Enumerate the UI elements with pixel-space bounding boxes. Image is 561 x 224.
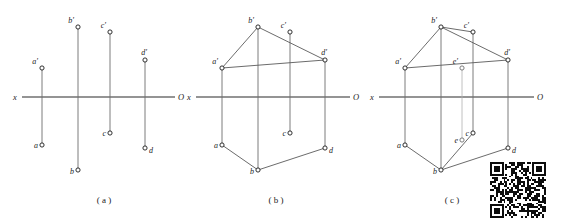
point-marker-e-prime-c <box>460 66 464 70</box>
point-label-b-b: b <box>250 167 254 176</box>
point-marker-c-a <box>108 131 112 135</box>
qr-code <box>487 162 549 218</box>
point-marker-b-prime-b <box>256 25 260 29</box>
point-label-b-c: b <box>433 167 437 176</box>
axis-label-x-b: x <box>186 92 191 102</box>
point-marker-c-b <box>288 131 292 135</box>
point-label-d-c: d <box>512 146 517 155</box>
point-marker-d-prime-a <box>143 58 147 62</box>
point-label-d-prime-a: d' <box>141 48 147 57</box>
point-marker-b-b <box>256 168 260 172</box>
point-label-a-c: a <box>397 141 401 150</box>
edge-ap-dp-b <box>222 60 325 68</box>
axis-label-o-b: O <box>353 92 359 102</box>
point-marker-a-b <box>220 143 224 147</box>
point-label-e-prime-c: e' <box>453 57 459 66</box>
edge-b-d-b <box>258 148 325 170</box>
panel-a: xOa'b'c'd'abcd <box>12 16 184 176</box>
point-label-c-b: c <box>282 129 286 138</box>
point-marker-a-c <box>403 143 407 147</box>
point-marker-c-prime-b <box>288 30 292 34</box>
point-label-d-b: d <box>329 146 334 155</box>
point-label-b-prime-a: b' <box>68 16 74 25</box>
point-label-b-a: b <box>70 167 74 176</box>
point-label-d-prime-c: d' <box>504 48 510 57</box>
panel-c-caption: ( c ) <box>445 195 460 205</box>
point-marker-c-prime-c <box>471 30 475 34</box>
point-label-a-prime-b: a' <box>212 57 218 66</box>
panel-a-caption: ( a ) <box>97 195 112 205</box>
edge-ap-bp-b <box>222 27 258 68</box>
point-marker-a-prime-a <box>40 66 44 70</box>
point-label-d-prime-b: d' <box>321 48 327 57</box>
point-marker-d-c <box>506 146 510 150</box>
point-label-c-prime-c: c' <box>464 21 470 30</box>
point-label-d-a: d <box>149 146 154 155</box>
axis-label-x-a: x <box>12 92 17 102</box>
panel-b: xOa'b'c'd'abcd <box>186 16 359 176</box>
point-label-a-prime-a: a' <box>32 57 38 66</box>
point-marker-c-prime-a <box>108 30 112 34</box>
point-label-c-prime-a: c' <box>101 21 107 30</box>
edge-ap-bp-c <box>405 27 441 68</box>
point-marker-b-prime-c <box>439 25 443 29</box>
qr-code-image <box>487 162 549 218</box>
point-marker-a-prime-c <box>403 66 407 70</box>
point-label-c-a: c <box>102 129 106 138</box>
generated-graphics: xOa'b'c'd'abcdxOa'b'c'd'abcdxOa'b'c'd'ab… <box>12 16 543 176</box>
panel-b-caption: ( b ) <box>269 195 284 205</box>
point-label-a-a: a <box>34 141 38 150</box>
point-marker-d-prime-b <box>323 58 327 62</box>
point-marker-a-a <box>40 143 44 147</box>
point-label-a-prime-c: a' <box>395 57 401 66</box>
point-marker-b-prime-a <box>76 25 80 29</box>
point-marker-d-b <box>323 146 327 150</box>
point-label-c-prime-b: c' <box>281 21 287 30</box>
point-label-c-c: c <box>465 129 469 138</box>
point-marker-d-prime-c <box>506 58 510 62</box>
point-marker-b-c <box>439 168 443 172</box>
point-marker-b-a <box>76 168 80 172</box>
axis-label-x-c: x <box>369 92 374 102</box>
projection-figure: xOa'b'c'd'abcdxOa'b'c'd'abcdxOa'b'c'd'ab… <box>0 0 561 224</box>
point-marker-e-c <box>460 138 464 142</box>
axis-label-o-c: O <box>537 92 543 102</box>
figure-canvas: xOa'b'c'd'abcdxOa'b'c'd'abcdxOa'b'c'd'ab… <box>0 0 561 224</box>
point-label-e-c: e <box>454 136 458 145</box>
point-label-b-prime-b: b' <box>248 16 254 25</box>
point-marker-a-prime-b <box>220 66 224 70</box>
point-label-a-b: a <box>214 141 218 150</box>
point-label-b-prime-c: b' <box>431 16 437 25</box>
panel-c: xOa'b'c'd'abcde'e <box>369 16 543 176</box>
point-marker-c-c <box>471 131 475 135</box>
axis-label-o-a: O <box>178 92 184 102</box>
point-marker-d-a <box>143 146 147 150</box>
